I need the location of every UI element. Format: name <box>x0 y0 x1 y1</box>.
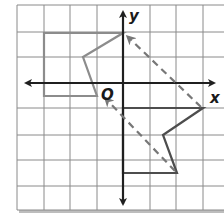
y-axis-label: y <box>129 7 140 25</box>
image-figure <box>123 108 203 173</box>
x-axis-label: x <box>209 89 221 107</box>
translation-arrow-1 <box>128 37 201 107</box>
origin-label: O <box>101 86 114 104</box>
coordinate-grid-figure: y x O <box>0 0 224 214</box>
